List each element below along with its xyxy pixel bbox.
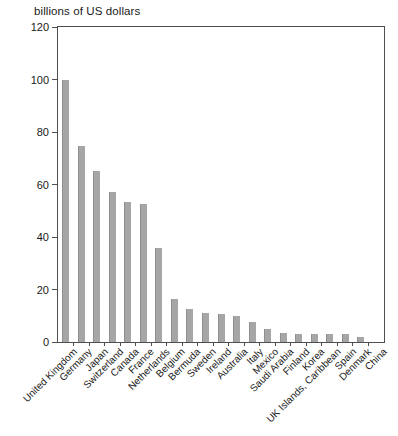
x-axis-tick [151,342,152,346]
y-axis-tick [52,184,58,185]
bar-finland [295,334,302,342]
x-axis-tick [290,342,291,346]
bar-australia [233,316,240,342]
x-axis-tick [213,342,214,346]
x-axis-tick [104,342,105,346]
x-axis-tick [244,342,245,346]
bar-mexico [264,329,271,342]
x-axis-tick [228,342,229,346]
y-axis-tick [52,289,58,290]
y-axis-tick [52,79,58,80]
plot-area: 020406080100120United KingdomGermanyJapa… [57,26,385,343]
y-axis-tick-label: 60 [37,179,49,191]
bar-united-kingdom [62,80,69,343]
x-axis-tick [259,342,260,346]
bar-korea [311,334,318,342]
y-axis-tick-label: 0 [43,336,49,348]
x-axis-tick [352,342,353,346]
bar-canada [124,202,131,342]
bar-saudi-arabia [280,333,287,342]
y-axis-tick [52,132,58,133]
y-axis-tick [52,27,58,28]
bar-netherlands [155,248,162,343]
bar-sweden [202,313,209,342]
bar-italy [249,322,256,342]
bar-spain [342,334,349,342]
x-axis-tick [135,342,136,346]
bar-ireland [218,314,225,342]
y-axis-tick-label: 80 [37,126,49,138]
y-axis-tick [52,342,58,343]
y-axis-tick-label: 20 [37,284,49,296]
bar-germany [78,146,85,342]
x-axis-tick [182,342,183,346]
x-axis-tick [73,342,74,346]
y-axis-tick-label: 40 [37,231,49,243]
x-axis-tick [337,342,338,346]
y-axis-tick-label: 100 [31,74,49,86]
bar-japan [93,171,100,342]
x-axis-tick [275,342,276,346]
bar-france [140,204,147,342]
bar-denmark [357,337,364,342]
x-axis-tick [89,342,90,346]
bar-belgium [171,299,178,342]
bar-uk-islands-caribbean [326,334,333,342]
x-axis-tick [368,342,369,346]
bar-chart-figure: billions of US dollars 020406080100120Un… [0,0,398,436]
chart-title: billions of US dollars [34,5,140,17]
y-axis-tick [52,237,58,238]
x-axis-tick [197,342,198,346]
x-axis-tick [166,342,167,346]
y-axis-tick-label: 120 [31,21,49,33]
x-axis-tick [321,342,322,346]
bar-switzerland [109,192,116,342]
x-axis-tick [306,342,307,346]
bar-bermuda [186,309,193,342]
x-axis-tick [120,342,121,346]
